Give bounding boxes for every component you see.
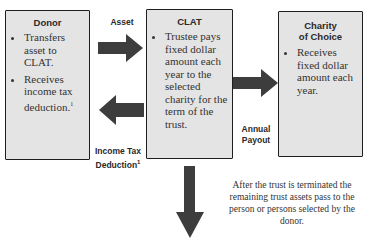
income-tax-label: Income Tax Deduction1	[90, 146, 146, 171]
arrow-left-income-tax-icon	[98, 95, 144, 125]
charity-title-line1: Charity	[283, 20, 358, 31]
footnote-mark: 1	[70, 101, 73, 107]
clat-bullet-1: Trustee pays fixed dollar amount each ye…	[165, 30, 228, 130]
asset-label: Asset	[104, 17, 140, 28]
termination-note: After the trust is terminated the remain…	[222, 179, 362, 227]
donor-box: Donor Transfers asset to CLAT. Receives …	[5, 10, 90, 160]
charity-title-line2: of Choice	[283, 31, 358, 42]
arrow-down-icon	[175, 166, 205, 238]
annual-payout-label: Annual Payout	[236, 124, 276, 146]
clat-title: CLAT	[151, 16, 228, 27]
donor-title: Donor	[10, 17, 85, 28]
charity-bullet-1: Receives fixed dollar amount each year.	[297, 46, 358, 96]
arrow-right-asset-icon	[98, 33, 144, 63]
donor-bullet-1: Transfers asset to CLAT.	[24, 31, 85, 69]
arrow-right-payout-icon	[233, 68, 279, 98]
charity-box: Charity of Choice Receives fixed dollar …	[278, 11, 363, 157]
donor-bullet-2: Receives income tax deduction.1	[24, 73, 85, 113]
clat-box: CLAT Trustee pays fixed dollar amount ea…	[146, 9, 233, 159]
